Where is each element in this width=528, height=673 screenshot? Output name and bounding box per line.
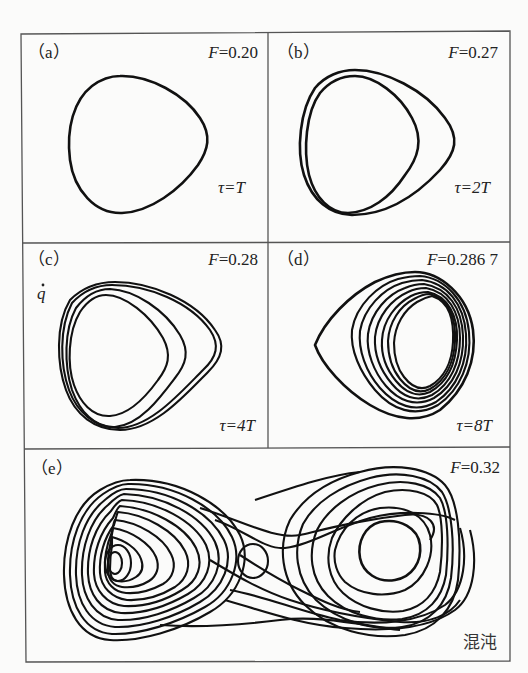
panel-c: （c） F=0.28 q τ=4T [28, 250, 258, 435]
orbit-period-2-outer [300, 70, 454, 215]
orbit-period-4-loop-4 [70, 295, 168, 416]
panel-a: （a） F=0.20 τ=T [28, 43, 258, 213]
panel-d: （d） F=0.286 7 τ=8T [277, 250, 498, 435]
panel-a-param: F=0.20 [207, 43, 258, 62]
phase-portrait-figure: （a） F=0.20 τ=T （b） F=0.27 τ=2T （c） F=0.2… [0, 0, 528, 673]
orbit-period-4-loop-1 [59, 282, 221, 430]
svg-text:q: q [37, 284, 46, 303]
panel-c-period: τ=4T [219, 416, 256, 435]
orbit-period-2-inner [306, 76, 418, 213]
panel-b: （b） F=0.27 τ=2T [277, 43, 498, 215]
panel-a-period: τ=T [218, 178, 247, 197]
panel-e-state-label: 混沌 [463, 632, 497, 652]
panel-e-label: （e） [31, 459, 73, 478]
panel-b-period: τ=2T [454, 178, 491, 197]
panel-e: （e） F=0.32 [31, 458, 500, 652]
panel-b-param: F=0.27 [447, 43, 498, 62]
panel-d-period: τ=8T [456, 416, 493, 435]
orbit-period-8-loop-7 [388, 294, 455, 391]
panel-a-label: （a） [28, 43, 70, 62]
panel-c-label: （c） [28, 250, 70, 269]
orbit-period-1 [69, 76, 207, 213]
panel-d-label: （d） [277, 250, 320, 269]
panel-d-param: F=0.286 7 [426, 250, 498, 269]
panel-b-label: （b） [277, 43, 320, 62]
panel-c-param: F=0.28 [207, 250, 258, 269]
panel-e-param: F=0.32 [449, 458, 500, 477]
orbit-period-8-loop-8 [394, 296, 453, 388]
chaotic-attractor [64, 467, 474, 640]
y-axis-label-qdot: q [37, 284, 46, 303]
